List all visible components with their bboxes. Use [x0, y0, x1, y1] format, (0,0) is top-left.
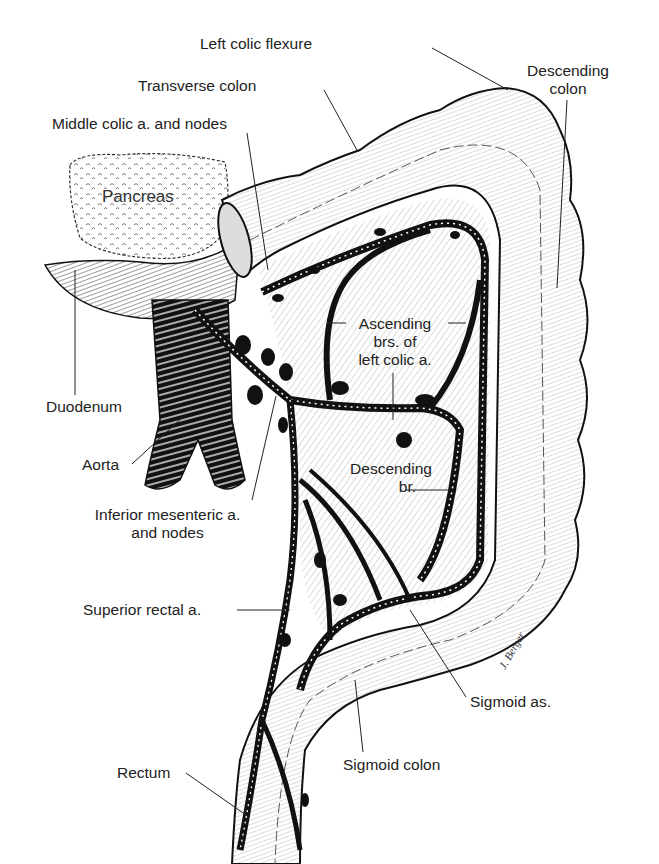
label-descending-br: Descending br.	[336, 460, 446, 496]
label-descending-colon: Descending colon	[518, 62, 618, 98]
label-sigmoid-as: Sigmoid as.	[470, 693, 551, 711]
label-inferior-mesenteric-line1: Inferior mesenteric a.	[75, 506, 260, 524]
label-descending-colon-line1: Descending	[518, 62, 618, 80]
label-sigmoid-colon: Sigmoid colon	[343, 756, 440, 774]
label-duodenum: Duodenum	[46, 398, 122, 416]
label-descending-colon-line2: colon	[518, 80, 618, 98]
label-middle-colic: Middle colic a. and nodes	[52, 115, 227, 133]
label-ascending-brs-line2: brs. of	[340, 333, 450, 351]
label-ascending-brs: Ascending brs. of left colic a.	[340, 315, 450, 369]
label-descending-br-line1: Descending	[336, 460, 446, 478]
label-ascending-brs-line1: Ascending	[340, 315, 450, 333]
pancreas	[70, 154, 228, 259]
label-descending-br-line2: br.	[336, 478, 446, 496]
label-rectum: Rectum	[117, 764, 170, 782]
label-ascending-brs-line3: left colic a.	[340, 351, 450, 369]
label-aorta: Aorta	[82, 456, 119, 474]
aorta	[145, 300, 245, 489]
label-inferior-mesenteric-line2: and nodes	[75, 524, 260, 542]
label-transverse-colon: Transverse colon	[138, 77, 256, 95]
label-superior-rectal: Superior rectal a.	[83, 601, 201, 619]
label-inferior-mesenteric: Inferior mesenteric a. and nodes	[75, 506, 260, 542]
label-left-colic-flexure: Left colic flexure	[200, 35, 312, 53]
label-pancreas: Pancreas	[102, 188, 174, 206]
